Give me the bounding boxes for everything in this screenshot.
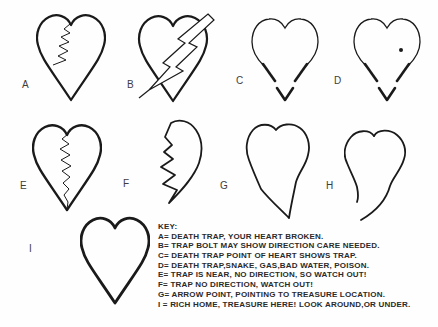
heart-open-tail-icon bbox=[344, 128, 410, 223]
half-heart-jagged-icon bbox=[158, 119, 204, 207]
poison-dot bbox=[399, 48, 403, 52]
figure-h bbox=[344, 128, 410, 223]
heart-plain-bold-icon bbox=[80, 215, 150, 307]
figure-label-e: E bbox=[20, 181, 27, 191]
figure-label-a: A bbox=[22, 80, 29, 90]
figure-f bbox=[158, 119, 204, 207]
heart-lightning-bolt-icon bbox=[137, 12, 217, 110]
key-entry-i: I = RICH HOME, TREASURE HERE! LOOK AROUN… bbox=[158, 300, 436, 310]
figure-i bbox=[80, 215, 150, 307]
figure-label-b: B bbox=[127, 80, 134, 90]
legend-key: KEY: A= DEATH TRAP, YOUR HEART BROKEN. B… bbox=[158, 222, 436, 309]
key-entry-e: E= TRAP IS NEAR, NO DIRECTION, SO WATCH … bbox=[158, 270, 436, 280]
key-entry-g: G= ARROW POINT, POINTING TO TREASURE LOC… bbox=[158, 290, 436, 300]
heart-cracked-top-icon bbox=[36, 12, 106, 104]
key-entry-f: F= TRAP NO DIRECTION, WATCH OUT! bbox=[158, 280, 436, 290]
heart-detached-point-icon bbox=[250, 16, 320, 104]
figure-b bbox=[137, 12, 217, 110]
heart-full-crack-icon bbox=[32, 122, 102, 214]
figure-label-h: H bbox=[326, 181, 333, 191]
heart-arrow-point-icon bbox=[245, 121, 313, 221]
figure-label-g: G bbox=[220, 181, 228, 191]
figure-label-f: F bbox=[123, 179, 129, 189]
heart-symbols-diagram: A B C D E bbox=[0, 0, 438, 327]
key-title: KEY: bbox=[158, 222, 436, 232]
heart-detached-point-dot-icon bbox=[352, 16, 422, 104]
figure-d bbox=[352, 16, 422, 104]
figure-a bbox=[36, 12, 106, 104]
key-entry-a: A= DEATH TRAP, YOUR HEART BROKEN. bbox=[158, 232, 436, 242]
figure-c bbox=[250, 16, 320, 104]
figure-label-c: C bbox=[236, 76, 243, 86]
key-entry-c: C= DEATH TRAP POINT OF HEART SHOWS TRAP. bbox=[158, 251, 436, 261]
key-entry-b: B= TRAP BOLT MAY SHOW DIRECTION CARE NEE… bbox=[158, 241, 436, 251]
figure-label-i: I bbox=[29, 244, 32, 254]
figure-e bbox=[32, 122, 102, 214]
figure-label-d: D bbox=[334, 76, 341, 86]
figure-g bbox=[245, 121, 313, 221]
key-entry-d: D= DEATH TRAP,SNAKE, GAS,BAD WATER, POIS… bbox=[158, 261, 436, 271]
